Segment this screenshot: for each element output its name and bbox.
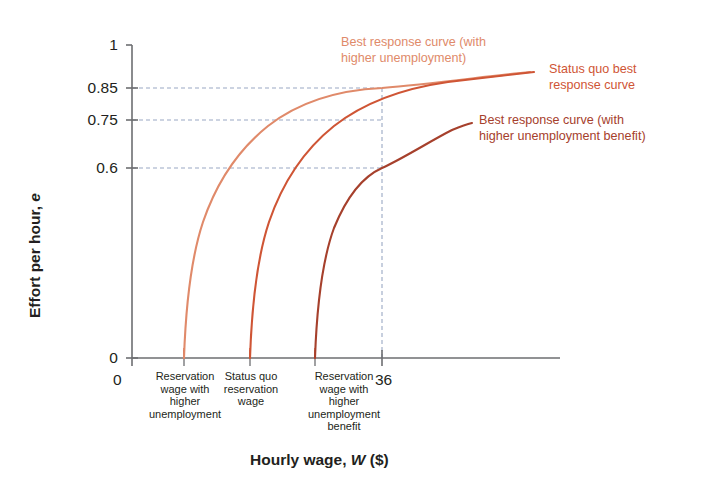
- gridlines: [132, 88, 382, 168]
- x-axis-title-symbol: W: [351, 451, 366, 468]
- annotation-1-line-1: Best response curve (with: [341, 35, 486, 51]
- cat2-line2: reservation: [212, 383, 290, 396]
- y-tick-label-06: 0.6: [60, 159, 118, 177]
- cat2-line3: wage: [212, 395, 290, 408]
- cat1-line4: unemployment: [132, 408, 238, 421]
- annotation-higher-unemployment: Best response curve (with higher unemplo…: [341, 35, 486, 66]
- cat3-line4: unemployment: [296, 408, 392, 421]
- y-axis-title-symbol: e: [26, 193, 43, 202]
- y-tick-label-0: 0: [60, 349, 118, 367]
- y-axis-title-main: Effort per hour,: [26, 202, 43, 318]
- y-tick-label-1: 1: [60, 36, 118, 54]
- annotation-status-quo: Status quo best response curve: [549, 62, 637, 93]
- x-axis-title-units: ($): [365, 451, 388, 468]
- annotation-2-line-1: Status quo best: [549, 62, 637, 78]
- x-tick-category-status-quo-reservation-wage: Status quo reservation wage: [212, 370, 290, 408]
- x-axis-title-main: Hourly wage,: [250, 451, 351, 468]
- y-tick-label-085: 0.85: [60, 79, 118, 97]
- annotation-3-line-2: higher unemployment benefit): [479, 129, 646, 145]
- annotation-2-line-2: response curve: [549, 78, 637, 94]
- cat3-line2: wage with: [296, 383, 392, 396]
- x-axis-title: Hourly wage, W ($): [250, 451, 389, 469]
- effort-wage-chart: 1 0.85 0.75 0.6 0 Effort per hour, e 0 3…: [0, 0, 718, 490]
- curve-higher-unemployment-benefit: [315, 123, 472, 358]
- annotation-3-line-1: Best response curve (with: [479, 113, 646, 129]
- cat3-line3: higher: [296, 395, 392, 408]
- cat3-line1: Reservation: [296, 370, 392, 383]
- annotation-1-line-2: higher unemployment): [341, 51, 486, 67]
- y-axis-title: Effort per hour, e: [26, 193, 44, 318]
- cat2-line1: Status quo: [212, 370, 290, 383]
- cat3-line5: benefit: [296, 420, 392, 433]
- x-tick-category-reservation-wage-higher-unemployment-benefit: Reservation wage with higher unemploymen…: [296, 370, 392, 433]
- x-tick-label-0: 0: [113, 371, 122, 389]
- y-tick-label-075: 0.75: [60, 111, 118, 129]
- annotation-higher-unemployment-benefit: Best response curve (with higher unemplo…: [479, 113, 646, 144]
